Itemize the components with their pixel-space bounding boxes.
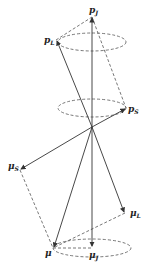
vector-muL (92, 127, 124, 212)
label-muL: μL (130, 208, 141, 219)
label-pJ: pJ (89, 5, 99, 17)
vector-pS (92, 109, 125, 127)
label-muS: μS (8, 161, 20, 172)
vector-muS (21, 127, 92, 169)
vector-pL (57, 41, 92, 127)
label-mu: μ (45, 248, 52, 258)
vector-mu (54, 127, 92, 247)
label-pL: pL (44, 35, 55, 46)
vector-diagram: pJ pL pS μS μL μ μJ (0, 0, 151, 275)
dash-muS-mu (20, 170, 53, 248)
dash-pL-pJ (56, 17, 92, 40)
label-pS: pS (128, 104, 139, 115)
label-muJ: μJ (89, 250, 100, 262)
dash-pJ-pS (92, 17, 126, 108)
dash-muL-mu (53, 213, 125, 248)
